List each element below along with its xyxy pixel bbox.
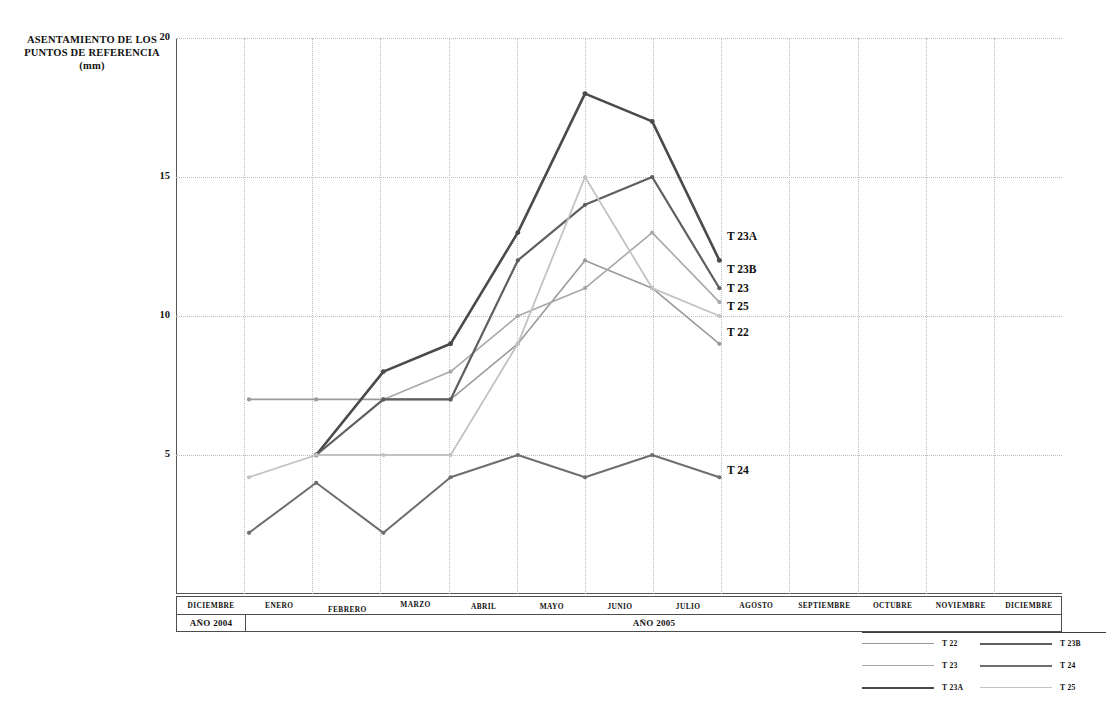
data-point: [583, 203, 587, 207]
data-point: [516, 314, 520, 318]
month-label: NOVIEMBRE: [927, 597, 995, 614]
chart-legend: T 22T 23T 23AT 23BT 24T 25: [862, 636, 1106, 698]
data-point: [381, 531, 385, 535]
legend-label: T 24: [1060, 658, 1076, 674]
legend-item: T 23B: [980, 636, 1110, 652]
month-label: MARZO: [381, 596, 449, 613]
data-point: [583, 475, 587, 479]
legend-label: T 23B: [1060, 636, 1081, 652]
legend-item: T 23A: [862, 680, 992, 696]
data-point: [381, 453, 385, 457]
series-label-t-24: T 24: [727, 464, 749, 476]
year-label: AÑO 2005: [245, 615, 1063, 632]
data-point: [650, 286, 654, 290]
data-point: [717, 314, 721, 318]
data-point: [717, 258, 722, 263]
legend-separator: [862, 632, 1106, 633]
data-point: [247, 531, 251, 535]
data-point: [650, 119, 655, 124]
data-point: [583, 175, 587, 179]
month-label: JULIO: [654, 598, 722, 615]
month-label: JUNIO: [586, 598, 654, 615]
legend-label: T 23: [942, 658, 958, 674]
month-row: DICIEMBREENEROFEBREROMARZOABRILMAYOJUNIO…: [177, 597, 1061, 615]
data-point: [247, 475, 251, 479]
month-label: MAYO: [518, 598, 586, 615]
series-label-t-23b: T 23B: [727, 263, 757, 275]
series-t-24: [247, 453, 722, 535]
month-label: ABRIL: [450, 598, 518, 615]
data-point: [314, 453, 318, 457]
data-point: [381, 369, 386, 374]
data-point: [449, 397, 453, 401]
series-label-t-25: T 25: [727, 300, 749, 312]
data-point: [650, 231, 654, 235]
legend-line-swatch: [980, 643, 1052, 645]
legend-item: T 23: [862, 658, 992, 674]
data-point: [516, 453, 520, 457]
data-point: [314, 481, 318, 485]
series-label-t-22: T 22: [727, 326, 749, 338]
legend-line-swatch: [862, 665, 934, 666]
legend-label: T 23A: [942, 680, 963, 696]
data-point: [515, 230, 520, 235]
series-label-t-23a: T 23A: [727, 230, 757, 242]
data-point: [717, 475, 721, 479]
series-line: [249, 455, 719, 533]
legend-line-swatch: [862, 687, 934, 689]
chart-page: ASENTAMIENTO DE LOS PUNTOS DE REFERENCIA…: [0, 0, 1114, 718]
series-t-25: [247, 175, 722, 479]
year-divider: [245, 615, 246, 632]
month-label: OCTUBRE: [859, 597, 927, 614]
series-line: [383, 233, 719, 400]
legend-line-swatch: [980, 687, 1052, 688]
month-label: ENERO: [245, 597, 313, 614]
data-point: [449, 370, 453, 374]
data-point: [247, 397, 251, 401]
legend-item: T 25: [980, 680, 1110, 696]
month-label: SEPTIEMBRE: [790, 597, 858, 614]
data-point: [449, 453, 453, 457]
legend-label: T 25: [1060, 680, 1076, 696]
data-point: [717, 286, 721, 290]
year-row: AÑO 2004AÑO 2005: [177, 615, 1061, 632]
series-label-t-23: T 23: [727, 282, 749, 294]
legend-line-swatch: [980, 665, 1052, 667]
data-point: [583, 258, 587, 262]
data-point: [583, 286, 587, 290]
data-point: [583, 91, 588, 96]
legend-line-swatch: [862, 643, 934, 644]
data-point: [650, 453, 654, 457]
data-point: [516, 258, 520, 262]
data-point: [381, 397, 385, 401]
data-point: [717, 342, 721, 346]
month-table: DICIEMBREENEROFEBREROMARZOABRILMAYOJUNIO…: [176, 596, 1062, 632]
series-t-23: [381, 231, 721, 402]
year-label: AÑO 2004: [177, 615, 245, 632]
data-point: [314, 397, 318, 401]
data-point: [516, 342, 520, 346]
data-point: [717, 300, 721, 304]
series-line: [316, 94, 719, 455]
data-point: [448, 341, 453, 346]
month-label: DICIEMBRE: [995, 597, 1063, 614]
data-point: [449, 475, 453, 479]
data-point: [650, 175, 654, 179]
legend-item: T 24: [980, 658, 1110, 674]
month-label: AGOSTO: [722, 597, 790, 614]
month-label: DICIEMBRE: [177, 597, 245, 614]
series-line: [249, 177, 719, 477]
series-t-23a: [314, 91, 722, 457]
legend-item: T 22: [862, 636, 992, 652]
legend-label: T 22: [942, 636, 958, 652]
